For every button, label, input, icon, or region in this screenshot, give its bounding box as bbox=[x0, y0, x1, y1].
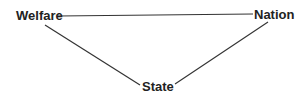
edge-welfare-state bbox=[45, 25, 140, 85]
node-nation: Nation bbox=[254, 8, 294, 21]
edge-state-nation bbox=[175, 22, 268, 84]
edge-welfare-nation bbox=[58, 14, 253, 16]
node-state: State bbox=[142, 80, 174, 93]
diagram-canvas: Welfare Nation State bbox=[0, 0, 305, 98]
node-welfare: Welfare bbox=[16, 9, 63, 22]
